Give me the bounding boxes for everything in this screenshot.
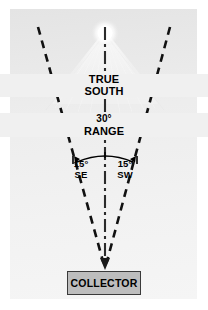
southwest-direction: SW — [110, 170, 140, 181]
range-label: 30° RANGE — [0, 113, 208, 137]
collector-box: COLLECTOR — [67, 271, 141, 295]
true-south-label: TRUE SOUTH — [0, 74, 208, 97]
southwest-sector-label: 15° SW — [110, 159, 140, 181]
true-south-line1: TRUE — [0, 74, 208, 86]
southeast-direction: SE — [66, 170, 96, 181]
convergence-arrow-head — [100, 258, 110, 270]
collector-label: COLLECTOR — [71, 277, 138, 289]
diagram-artwork — [0, 0, 208, 310]
solar-orientation-diagram: TRUE SOUTH 30° RANGE 15° SE 15° SW COLLE… — [0, 0, 208, 310]
range-degrees: 30° — [0, 113, 208, 125]
true-south-line2: SOUTH — [0, 86, 208, 98]
range-word: RANGE — [0, 125, 208, 137]
southeast-sector-label: 15° SE — [66, 159, 96, 181]
